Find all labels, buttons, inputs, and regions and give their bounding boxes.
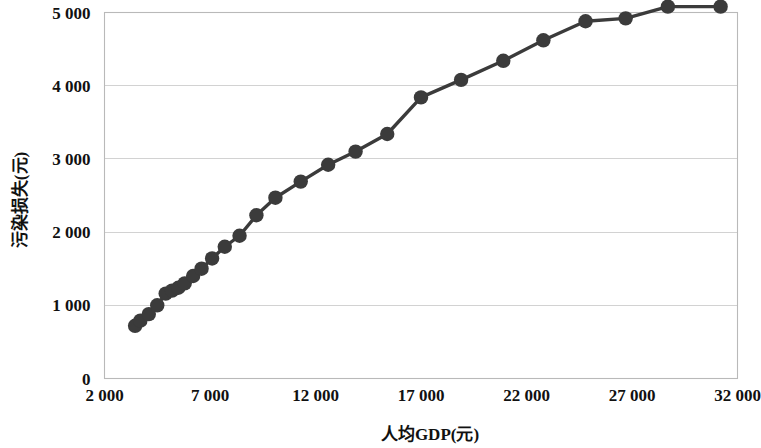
data-point-marker [454, 73, 468, 87]
data-point-marker [150, 298, 164, 312]
series-line-pollution-loss [135, 7, 721, 326]
data-point-marker [578, 14, 592, 28]
data-point-marker [205, 251, 219, 265]
chart-container: 01 0002 0003 0004 0005 000 2 0007 00012 … [0, 0, 761, 448]
y-tick-label: 2 000 [52, 223, 90, 242]
data-point-marker [536, 33, 550, 47]
data-point-marker [496, 54, 510, 68]
y-tick-label: 3 000 [52, 150, 90, 169]
y-tick-label: 1 000 [52, 296, 90, 315]
data-point-marker [194, 262, 208, 276]
data-point-marker [348, 144, 362, 158]
data-point-marker [249, 208, 263, 222]
data-point-marker [294, 174, 308, 188]
data-point-marker [661, 0, 675, 14]
data-point-marker [218, 240, 232, 254]
y-axis-tick-labels: 01 0002 0003 0004 0005 000 [52, 4, 90, 389]
x-tick-label: 7 000 [191, 386, 229, 405]
data-point-marker [232, 229, 246, 243]
gridlines [105, 13, 738, 306]
x-tick-label: 22 000 [503, 386, 550, 405]
y-tick-label: 5 000 [52, 4, 90, 23]
x-axis-title: 人均GDP(元) [381, 424, 479, 444]
x-tick-label: 12 000 [292, 386, 339, 405]
data-point-marker [618, 11, 632, 25]
line-chart: 01 0002 0003 0004 0005 000 2 0007 00012 … [0, 0, 761, 448]
x-tick-label: 17 000 [398, 386, 445, 405]
x-tick-label: 32 000 [714, 386, 761, 405]
data-point-marker [380, 127, 394, 141]
x-tick-label: 2 000 [85, 386, 123, 405]
y-axis-title: 污染损失(元) [10, 152, 30, 248]
data-point-marker [268, 191, 282, 205]
data-point-marker [713, 0, 727, 14]
x-tick-label: 27 000 [609, 386, 656, 405]
data-point-marker [321, 158, 335, 172]
series-markers [128, 0, 728, 333]
plot-area-border [105, 13, 738, 379]
x-axis-tick-labels: 2 0007 00012 00017 00022 00027 00032 000 [85, 386, 761, 405]
y-tick-label: 4 000 [52, 77, 90, 96]
data-point-marker [414, 90, 428, 104]
